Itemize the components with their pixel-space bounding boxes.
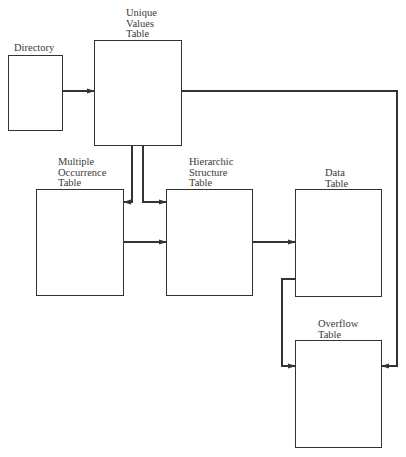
database-structure-diagram: DirectoryUnique Values TableMultiple Occ… — [0, 0, 406, 457]
data-to-overflow-connector — [282, 279, 295, 366]
connector-layer — [0, 0, 406, 457]
unique-values-to-hierarchic-structure-connector — [143, 146, 166, 202]
unique-values-to-overflow-connector — [182, 91, 397, 366]
unique-values-to-multiple-occurrence-connector — [124, 146, 132, 202]
